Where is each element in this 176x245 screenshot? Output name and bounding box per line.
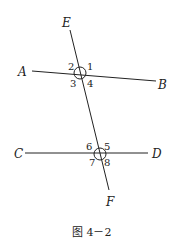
label-a: A	[17, 65, 27, 79]
angle-1: 1	[87, 61, 93, 72]
figure-caption: 图 4－2	[72, 226, 112, 239]
label-c: C	[14, 147, 23, 161]
angle-4: 4	[87, 78, 93, 89]
angle-8: 8	[104, 157, 110, 168]
geometry-figure: E A B C D F 1 2 3 4 5 6 7 8 图 4－2	[0, 0, 176, 245]
angle-5: 5	[104, 141, 110, 152]
line-ab	[32, 71, 156, 81]
label-f: F	[105, 195, 115, 209]
angle-3: 3	[70, 78, 76, 89]
label-d: D	[151, 147, 162, 161]
label-b: B	[157, 78, 167, 92]
angle-2: 2	[68, 61, 74, 72]
angle-6: 6	[86, 141, 92, 152]
label-e: E	[61, 16, 71, 30]
angle-7: 7	[89, 157, 95, 168]
